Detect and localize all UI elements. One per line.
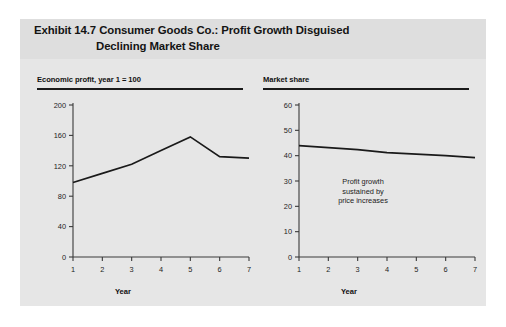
y-tick-label-economic-profit-2: 80 [58, 192, 66, 201]
xaxis-label-market-share: Year [241, 287, 457, 296]
charts-container: Economic profit, year 1 = 100 0408012016… [20, 59, 486, 306]
y-tick-label-market-share-0: 0 [288, 253, 292, 262]
y-tick-label-market-share-4: 40 [284, 151, 292, 160]
y-tick-label-market-share-6: 60 [284, 101, 292, 110]
x-tick-label-market-share-1: 2 [326, 265, 330, 274]
chart-economic-profit: Economic profit, year 1 = 100 0408012016… [37, 59, 253, 306]
plot-area-economic-profit: 040801201602001234567 [37, 97, 253, 297]
chart-header-rule [263, 88, 469, 90]
x-tick-label-economic-profit-2: 3 [130, 265, 134, 274]
annotation-line-1: Profit growth [309, 177, 417, 187]
data-line-economic-profit-0 [73, 137, 249, 183]
xaxis-label-economic-profit: Year [15, 287, 231, 296]
y-tick-label-economic-profit-1: 40 [58, 222, 66, 231]
chart-annotation-market-share: Profit growth sustained by price increas… [309, 177, 417, 206]
x-tick-label-economic-profit-4: 5 [188, 265, 192, 274]
y-tick-label-economic-profit-3: 120 [54, 162, 66, 171]
chart-header-economic-profit: Economic profit, year 1 = 100 [37, 75, 243, 84]
y-tick-label-market-share-5: 50 [284, 126, 292, 135]
y-tick-label-market-share-2: 20 [284, 202, 292, 211]
exhibit-title-line1: Exhibit 14.7 Consumer Goods Co.: Profit … [34, 24, 349, 36]
annotation-line-2: sustained by [309, 187, 417, 197]
y-tick-label-economic-profit-5: 200 [54, 101, 66, 110]
y-tick-label-economic-profit-4: 160 [54, 131, 66, 140]
line-chart-svg-economic-profit: 040801201602001234567 [37, 97, 253, 297]
x-tick-label-market-share-5: 6 [444, 265, 448, 274]
x-tick-label-economic-profit-0: 1 [71, 265, 75, 274]
exhibit-panel: Exhibit 14.7 Consumer Goods Co.: Profit … [20, 19, 486, 306]
x-tick-label-market-share-0: 1 [297, 265, 301, 274]
x-tick-label-market-share-2: 3 [356, 265, 360, 274]
x-tick-label-economic-profit-5: 6 [218, 265, 222, 274]
exhibit-title: Exhibit 14.7 Consumer Goods Co.: Profit … [34, 23, 474, 54]
y-tick-label-market-share-3: 30 [284, 177, 292, 186]
data-line-market-share-0 [299, 146, 475, 158]
x-tick-label-economic-profit-6: 7 [247, 265, 251, 274]
x-tick-label-economic-profit-1: 2 [100, 265, 104, 274]
x-tick-label-market-share-3: 4 [385, 265, 389, 274]
annotation-line-3: price increases [309, 196, 417, 206]
x-tick-label-economic-profit-3: 4 [159, 265, 163, 274]
y-tick-label-market-share-1: 10 [284, 227, 292, 236]
chart-header-rule [37, 88, 243, 90]
chart-market-share: Market share 01020304050601234567 Profit… [263, 59, 479, 306]
chart-header-market-share: Market share [263, 75, 469, 84]
exhibit-title-line2: Declining Market Share [34, 39, 474, 55]
y-tick-label-economic-profit-0: 0 [62, 253, 66, 262]
x-tick-label-market-share-6: 7 [473, 265, 477, 274]
x-tick-label-market-share-4: 5 [414, 265, 418, 274]
